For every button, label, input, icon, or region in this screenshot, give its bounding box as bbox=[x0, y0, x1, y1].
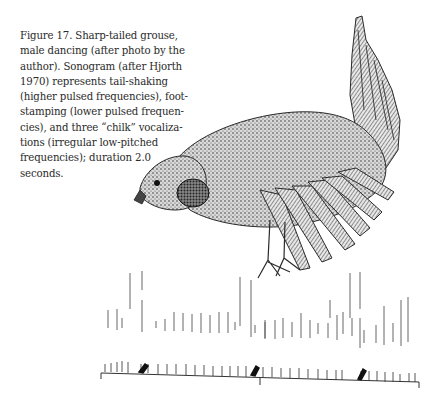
bird-illustration bbox=[134, 16, 400, 278]
sonogram bbox=[108, 271, 408, 348]
air-sac bbox=[177, 179, 209, 207]
bird-eye bbox=[154, 180, 160, 186]
time-axis bbox=[101, 373, 419, 388]
